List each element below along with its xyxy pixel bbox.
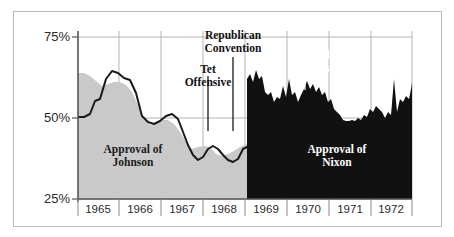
approval-ratings-chart-figure: 75% 50% 25% 1965 1966 1967 1968 1969 197…: [0, 0, 454, 237]
x-tick-label-1967: 1967: [160, 203, 204, 215]
annotation-tet-offensive: Tet Offensive: [178, 63, 238, 88]
annotation-republican-convention: Republican Convention: [195, 29, 271, 54]
y-tick-marks: [72, 37, 78, 199]
annotation-republican-convention-line1: Republican: [195, 29, 271, 42]
series-label-nixon-line1: Approval of: [282, 143, 392, 156]
x-tick-label-1966: 1966: [118, 203, 162, 215]
annotation-republican-convention-line2: Convention: [195, 42, 271, 55]
x-tick-label-1970: 1970: [286, 203, 330, 215]
x-tick-label-1968: 1968: [202, 203, 246, 215]
johnson-area-series: [78, 73, 247, 199]
series-label-johnson-line1: Approval of: [78, 143, 188, 156]
y-tick-label-50: 50%: [18, 110, 70, 125]
x-tick-label-1972: 1972: [369, 203, 413, 215]
annotation-cambodia-invasion: Cambodia Invasion: [303, 49, 375, 74]
series-label-johnson-line2: Johnson: [78, 156, 188, 169]
annotation-tet-offensive-line1: Tet: [178, 63, 238, 76]
x-tick-label-1971: 1971: [328, 203, 372, 215]
x-tick-label-1969: 1969: [244, 203, 288, 215]
y-tick-label-25: 25%: [18, 191, 70, 206]
series-label-nixon: Approval of Nixon: [282, 143, 392, 169]
series-label-nixon-line2: Nixon: [282, 156, 392, 169]
annotation-cambodia-invasion-line1: Cambodia: [303, 49, 375, 62]
x-tick-label-1965: 1965: [76, 203, 120, 215]
series-label-johnson: Approval of Johnson: [78, 143, 188, 169]
annotation-tet-offensive-line2: Offensive: [178, 76, 238, 89]
y-tick-label-75: 75%: [18, 29, 70, 44]
annotation-cambodia-invasion-line2: Invasion: [303, 62, 375, 75]
